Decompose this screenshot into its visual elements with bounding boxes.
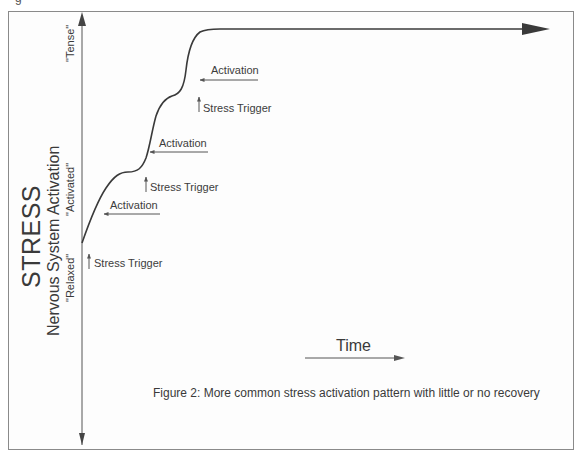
axis-down-arrow-icon <box>79 433 85 445</box>
y-axis-subtitle: Nervous System Activation <box>45 146 63 336</box>
level-activated: "Activated" <box>64 163 76 216</box>
axis-up-arrow-icon <box>78 12 86 26</box>
activation-label-1: Activation <box>110 199 158 211</box>
activation-label-2: Activation <box>159 137 207 149</box>
time-arrow-head-icon <box>394 355 405 361</box>
time-arrow <box>305 355 405 361</box>
y-axis-title: STRESS <box>17 185 46 288</box>
level-tense: "Tense" <box>64 25 76 62</box>
level-relaxed: "Relaxed" <box>64 254 76 302</box>
vertical-axis <box>78 12 86 445</box>
stress-trigger-label-2: Stress Trigger <box>150 181 218 193</box>
stress-trigger-label-1: Stress Trigger <box>94 257 162 269</box>
stress-trigger-label-3: Stress Trigger <box>203 102 271 114</box>
activation-label-3: Activation <box>211 64 259 76</box>
x-axis-label-time: Time <box>336 337 371 355</box>
curve-end-arrow-icon <box>522 23 550 35</box>
figure-caption: Figure 2: More common stress activation … <box>153 386 540 400</box>
